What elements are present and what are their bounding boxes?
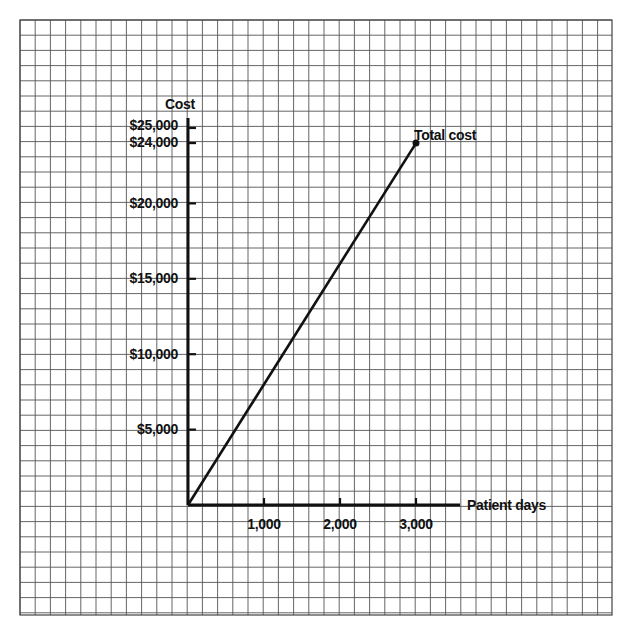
y-tick-label-20000: $20,000: [98, 195, 178, 211]
x-tick-label-1000: 1,000: [234, 516, 294, 532]
y-tick-label-10000: $10,000: [98, 346, 178, 362]
chart-canvas: [0, 0, 637, 638]
y-tick-label-24000: $24,000: [98, 134, 178, 150]
y-tick-label-5000: $5,000: [98, 421, 178, 437]
y-tick-label-15000: $15,000: [98, 270, 178, 286]
x-tick-label-3000: 3,000: [386, 516, 446, 532]
x-tick-label-2000: 2,000: [310, 516, 370, 532]
x-axis-title: Patient days: [467, 497, 546, 513]
y-tick-label-25000: $25,000: [98, 117, 178, 133]
y-axis-title: Cost: [165, 96, 195, 112]
series-label-total-cost: Total cost: [414, 127, 476, 143]
